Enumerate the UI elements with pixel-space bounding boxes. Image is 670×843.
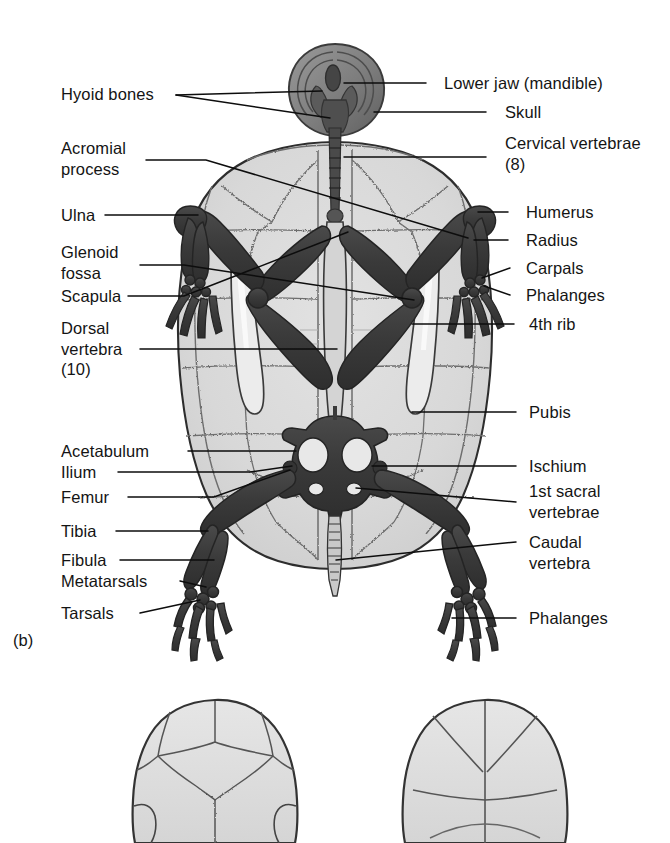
label-lower-jaw-mandible: Lower jaw (mandible): [444, 73, 603, 94]
label-4th-rib: 4th rib: [529, 314, 576, 335]
label-phalanges-hind: Phalanges: [529, 608, 608, 629]
label-metatarsals: Metatarsals: [61, 571, 147, 592]
label-tibia: Tibia: [61, 521, 97, 542]
dorsal-vertebral-column: [324, 222, 347, 420]
obturator-foramen-right: [342, 438, 372, 472]
label-pubis: Pubis: [529, 402, 571, 423]
label-ilium: Ilium: [61, 462, 96, 483]
label-femur: Femur: [61, 487, 109, 508]
skull-base-plate: [322, 100, 349, 132]
label-glenoid-fossa: Glenoid fossa: [61, 242, 119, 283]
label-ulna: Ulna: [61, 205, 95, 226]
label-scapula: Scapula: [61, 286, 121, 307]
pelvic-foramen-small-left: [309, 483, 324, 495]
caudal-vertebrae-column: [328, 516, 342, 596]
panel-tag-b: (b): [13, 631, 33, 650]
label-ischium: Ischium: [529, 456, 587, 477]
label-1st-sacral-vertebrae: 1st sacral vertebrae: [529, 481, 601, 522]
label-acromial-process: Acromial process: [61, 138, 126, 179]
label-caudal-vertebra: Caudal vertebra: [529, 532, 590, 573]
label-dorsal-vertebra: Dorsal vertebra (10): [61, 318, 122, 380]
label-cervical-vertebrae: Cervical vertebrae (8): [505, 133, 641, 174]
label-fibula: Fibula: [61, 550, 107, 571]
label-skull: Skull: [505, 102, 541, 123]
label-humerus: Humerus: [526, 202, 594, 223]
glenoid-fossa-left: [248, 288, 268, 308]
label-tarsals: Tarsals: [61, 603, 114, 624]
label-radius: Radius: [526, 230, 578, 251]
label-acetabulum: Acetabulum: [61, 441, 149, 462]
obturator-foramen-left: [298, 438, 328, 472]
label-phalanges-fore: Phalanges: [526, 285, 605, 306]
pubis-anterior-spine: [333, 406, 337, 420]
lower-jaw-shape: [326, 65, 341, 91]
label-hyoid-bones: Hyoid bones: [61, 84, 154, 105]
label-carpals: Carpals: [526, 258, 584, 279]
